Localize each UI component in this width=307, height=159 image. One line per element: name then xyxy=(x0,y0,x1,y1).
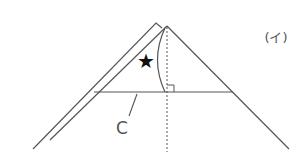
outer-fold-edge xyxy=(33,23,162,149)
label-c-leader xyxy=(129,94,137,116)
figure-label: (イ) xyxy=(264,30,287,45)
segment-label-c: C xyxy=(116,118,128,138)
fold-arc xyxy=(158,28,166,92)
star-marker: ★ xyxy=(137,49,155,73)
right-angle-marker xyxy=(167,85,174,92)
inner-left-edge xyxy=(50,26,167,140)
fold-diagram: ★ C (イ) xyxy=(0,0,307,159)
